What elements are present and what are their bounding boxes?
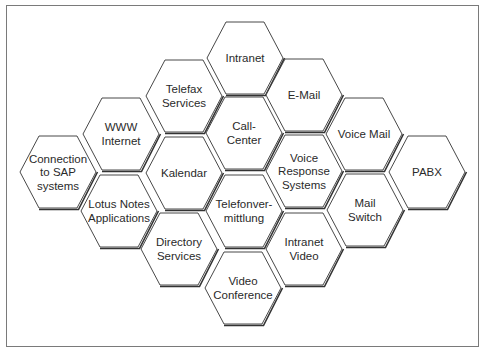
hexagon-label: E-Mail [288, 89, 321, 101]
hexagon-label: Connection [29, 153, 87, 165]
hexagon-label: Mail [354, 197, 375, 209]
hexagon-label: Kalendar [161, 167, 207, 179]
hexagon-label: Directory [156, 236, 202, 248]
hexagon-label: Internet [102, 135, 142, 147]
hexagon-label: Intranet [226, 52, 266, 64]
hexagon-www-internet: WWWInternet [83, 98, 161, 172]
hexagon-label: Call- [232, 120, 256, 132]
hexagon-label: Center [227, 134, 262, 146]
hexagon-connection-to-sap: Connectionto SAPsystems [20, 136, 98, 210]
hexagon-mail-switch: MailSwitch [327, 174, 405, 248]
hexagon-label: systems [37, 180, 79, 192]
hexagon-video-conference: VideoConference [205, 252, 283, 326]
hexagon-label: Systems [282, 179, 326, 191]
hexagon-label: to SAP [40, 166, 76, 178]
hexagon-label: Voice Mail [338, 128, 390, 140]
hexagon-label: Intranet [285, 236, 325, 248]
hexagon-label: Voice [290, 152, 318, 164]
hexagon-label: Services [162, 97, 206, 109]
hexagon-label: Video [289, 250, 318, 262]
hexagon-label: Response [278, 165, 330, 177]
hexagon-label: Applications [88, 212, 150, 224]
hexagon-label: Services [157, 250, 201, 262]
hexagon-label: Video [228, 275, 257, 287]
hexagon-label: Conference [213, 289, 272, 301]
hexagon-label: Lotus Notes [88, 198, 150, 210]
hexagon-label: Switch [348, 211, 382, 223]
hexagon-label: PABX [412, 166, 442, 178]
hexagon-label: Telefonver- [216, 198, 273, 210]
hexagon-voice-mail: Voice Mail [326, 98, 404, 172]
hexagon-diagram: IntranetTelefaxServicesE-MailWWWInternet… [0, 0, 485, 355]
hexagon-pabx: PABX [389, 136, 467, 210]
hexagon-label: WWW [105, 121, 138, 133]
hexagon-label: Telefax [166, 83, 203, 95]
hexagon-label: mittlung [224, 212, 264, 224]
